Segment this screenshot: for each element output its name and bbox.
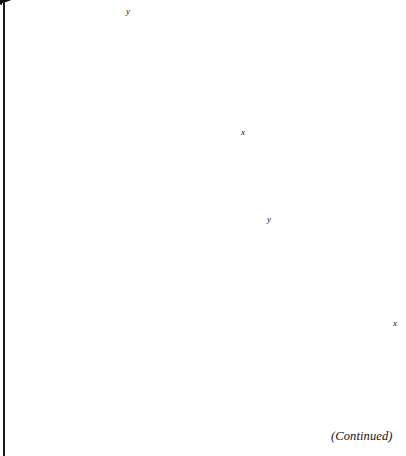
graph-2-x-axis-label: x (392, 318, 397, 328)
figure-page: x y x y (Continued) (0, 0, 406, 456)
graph-2-y-axis-label: y (266, 214, 271, 224)
continued-caption: (Continued) (331, 429, 393, 444)
graph-1-x-axis-label: x (240, 127, 245, 137)
graph-1: x y (0, 0, 245, 137)
graph-1-y-axis-label: y (125, 6, 130, 16)
coordinate-graphs-figure: x y x y (0, 0, 406, 456)
graph-2: x y (0, 0, 397, 328)
